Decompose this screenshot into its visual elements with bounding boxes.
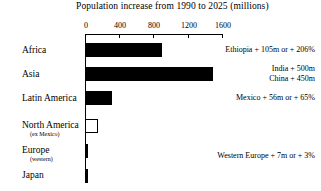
axis-tick-label-1600: 1600 [215,21,231,30]
bar-label-europe: Europe (western) [22,145,92,163]
axis-line [85,34,223,35]
bar-label-japan: Japan [22,170,92,181]
bar-label-africa: Africa [22,45,82,56]
axis-tick-1600 [222,34,223,38]
axis-tick-800 [153,34,154,38]
axis-tick-label-1200: 1200 [181,21,197,30]
bar-annotation-europe: Western Europe + 7m or + 3% [217,151,315,161]
bar-label-north-america: North America (ex Mexico) [22,120,92,138]
axis-tick-1200 [188,34,189,38]
axis-tick-label-800: 800 [148,21,160,30]
bar-japan [85,169,88,183]
bar-asia [85,67,213,81]
axis-tick-label-400: 400 [114,21,126,30]
bar-label-asia: Asia [22,69,82,80]
bar-north-america [85,119,98,133]
bar-europe [85,144,88,158]
bar-annotation-asia: India + 500m China + 450m [269,64,315,83]
bar-annotation-latin-america: Mexico + 56m or + 65% [236,93,315,103]
population-increase-bar-chart: Population increase from 1990 to 2025 (m… [0,0,321,191]
bar-latin-america [85,91,112,105]
bar-africa [85,43,162,57]
axis-tick-400 [119,34,120,38]
bar-annotation-africa: Ethiopia + 105m or + 206% [225,45,315,55]
axis-tick-label-0: 0 [84,21,88,30]
bar-label-latin-america: Latin America [22,93,92,104]
